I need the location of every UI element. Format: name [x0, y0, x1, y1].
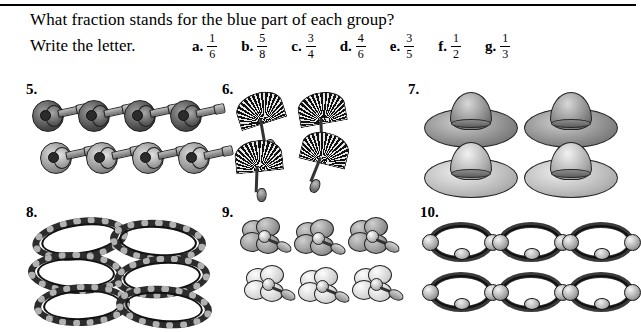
maraca-ring-icon	[428, 222, 494, 262]
choice-d-numerator: 4	[356, 32, 366, 45]
choice-c-denominator: 4	[306, 48, 316, 61]
choice-f-numerator: 1	[451, 32, 461, 45]
flower-icon	[298, 270, 354, 310]
choice-c-fraction: 3 4	[306, 32, 316, 60]
flower-icon	[244, 268, 300, 308]
problem-5-number: 5.	[26, 81, 37, 97]
flower-icon	[240, 220, 296, 260]
problem-6: 6.	[222, 80, 233, 98]
choice-b-letter: b.	[241, 38, 253, 55]
choice-f-denominator: 2	[451, 48, 461, 61]
maraca-ring-icon	[498, 222, 564, 262]
choice-b-numerator: 5	[257, 32, 267, 45]
maraca-ring-icon	[498, 272, 564, 312]
choice-a[interactable]: a. 1 6	[192, 32, 217, 60]
choice-c-letter: c.	[291, 38, 301, 55]
choice-d[interactable]: d. 4 6	[340, 32, 366, 60]
guitar-icon	[32, 98, 84, 132]
instruction-line-1: What fraction stands for the blue part o…	[30, 10, 395, 30]
choice-b-denominator: 8	[257, 48, 267, 61]
problem-7: 7.	[408, 80, 419, 98]
choice-g-numerator: 1	[500, 32, 510, 45]
maraca-ring-icon	[428, 272, 494, 312]
choice-a-letter: a.	[192, 38, 203, 55]
choice-a-numerator: 1	[207, 32, 217, 45]
choice-e[interactable]: e. 3 5	[390, 32, 414, 60]
problem-9: 9.	[222, 203, 233, 221]
choice-g-fraction: 1 3	[500, 32, 510, 60]
fan-icon	[291, 127, 352, 197]
problem-5-group	[30, 96, 230, 196]
choice-d-denominator: 6	[356, 48, 366, 61]
problem-9-group	[240, 220, 420, 320]
problem-9-number: 9.	[222, 204, 233, 220]
guitar-icon	[132, 140, 184, 174]
choice-f-letter: f.	[438, 38, 447, 55]
choice-e-denominator: 5	[404, 48, 414, 61]
answer-choices: a. 1 6 b. 5 8 c. 3 4 d. 4 6 e. 3	[192, 32, 534, 60]
sombrero-icon	[424, 142, 516, 198]
choice-g-denominator: 3	[500, 48, 510, 61]
header-rule	[0, 4, 636, 6]
choice-c-numerator: 3	[306, 32, 316, 45]
choice-g[interactable]: g. 1 3	[485, 32, 510, 60]
guitar-icon	[178, 140, 230, 174]
sombrero-icon	[424, 92, 516, 148]
problem-8-group	[26, 218, 226, 322]
problem-7-group	[424, 92, 624, 198]
flower-icon	[348, 220, 404, 260]
guitar-icon	[40, 140, 92, 174]
choice-d-letter: d.	[340, 38, 352, 55]
choice-e-fraction: 3 5	[404, 32, 414, 60]
fan-icon	[233, 138, 287, 203]
choice-b[interactable]: b. 5 8	[241, 32, 267, 60]
choice-b-fraction: 5 8	[257, 32, 267, 60]
problem-10-group	[424, 222, 634, 322]
choice-f[interactable]: f. 1 2	[438, 32, 461, 60]
guitar-icon	[86, 140, 138, 174]
guitar-icon	[78, 98, 130, 132]
choice-f-fraction: 1 2	[451, 32, 461, 60]
guitar-icon	[170, 98, 222, 132]
choice-e-letter: e.	[390, 38, 400, 55]
instruction-line-2: Write the letter.	[30, 36, 136, 56]
problem-7-number: 7.	[408, 81, 419, 97]
problem-6-number: 6.	[222, 81, 233, 97]
choice-e-numerator: 3	[404, 32, 414, 45]
sombrero-icon	[524, 92, 616, 148]
maraca-ring-icon	[568, 272, 634, 312]
guitar-icon	[124, 98, 176, 132]
choice-c[interactable]: c. 3 4	[291, 32, 315, 60]
flower-icon	[294, 222, 350, 262]
problem-10: 10.	[420, 203, 439, 221]
flower-icon	[352, 268, 408, 308]
sombrero-icon	[524, 142, 616, 198]
choice-d-fraction: 4 6	[356, 32, 366, 60]
choice-a-denominator: 6	[207, 48, 217, 61]
problem-6-group	[236, 92, 396, 198]
rope-icon	[114, 282, 213, 332]
maraca-ring-icon	[568, 222, 634, 262]
problem-10-number: 10.	[420, 204, 439, 220]
choice-g-letter: g.	[485, 38, 496, 55]
choice-a-fraction: 1 6	[207, 32, 217, 60]
